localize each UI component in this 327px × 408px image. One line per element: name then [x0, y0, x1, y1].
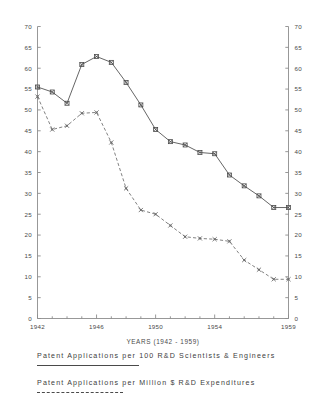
svg-text:0: 0	[295, 315, 299, 322]
svg-text:15: 15	[295, 252, 303, 259]
line-chart-plot: 0055101015152020252530303535404045455050…	[0, 0, 327, 352]
svg-text:25: 25	[295, 211, 303, 218]
svg-text:40: 40	[25, 148, 33, 155]
svg-text:30: 30	[295, 190, 303, 197]
legend-swatch-dashed-line	[37, 392, 123, 393]
legend-item-solid: Patent Applications per 100 R&D Scientis…	[0, 352, 327, 379]
svg-text:40: 40	[295, 148, 303, 155]
svg-text:65: 65	[25, 44, 33, 51]
svg-text:45: 45	[25, 127, 33, 134]
svg-text:5: 5	[295, 294, 299, 301]
svg-text:1959: 1959	[281, 323, 296, 330]
svg-text:60: 60	[295, 65, 303, 72]
svg-text:55: 55	[295, 85, 303, 92]
svg-text:5: 5	[28, 294, 32, 301]
chart-legend: Patent Applications per 100 R&D Scientis…	[0, 352, 327, 406]
svg-text:45: 45	[295, 127, 303, 134]
svg-text:30: 30	[25, 190, 33, 197]
svg-text:35: 35	[25, 169, 33, 176]
svg-text:YEARS (1942 - 1959): YEARS (1942 - 1959)	[126, 338, 199, 346]
svg-text:65: 65	[295, 44, 303, 51]
svg-text:10: 10	[295, 273, 303, 280]
svg-text:35: 35	[295, 169, 303, 176]
svg-text:25: 25	[25, 211, 33, 218]
svg-text:1942: 1942	[30, 323, 45, 330]
svg-text:0: 0	[28, 315, 32, 322]
series-dashed	[35, 94, 290, 281]
svg-text:60: 60	[25, 65, 33, 72]
svg-text:20: 20	[25, 231, 33, 238]
svg-text:10: 10	[25, 273, 33, 280]
legend-swatch-solid-line	[37, 365, 139, 366]
svg-text:70: 70	[25, 23, 33, 30]
svg-text:15: 15	[25, 252, 33, 259]
legend-label-dashed: Patent Applications per Million $ R&D Ex…	[37, 379, 255, 387]
chart-container: 0055101015152020252530303535404045455050…	[0, 0, 327, 408]
svg-text:55: 55	[25, 85, 33, 92]
legend-item-dashed: Patent Applications per Million $ R&D Ex…	[0, 379, 327, 406]
svg-text:50: 50	[25, 106, 33, 113]
series-solid	[36, 55, 291, 210]
svg-text:1950: 1950	[148, 323, 163, 330]
svg-text:1954: 1954	[207, 323, 222, 330]
svg-text:70: 70	[295, 23, 303, 30]
legend-label-solid: Patent Applications per 100 R&D Scientis…	[37, 352, 275, 360]
svg-text:1946: 1946	[89, 323, 104, 330]
svg-text:20: 20	[295, 231, 303, 238]
svg-text:50: 50	[295, 106, 303, 113]
